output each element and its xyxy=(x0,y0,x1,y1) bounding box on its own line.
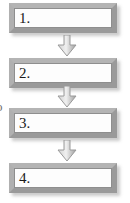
flowchart-diagram: o 1. 2. 3. xyxy=(0,0,130,203)
step-box-inner-4: 4. xyxy=(14,168,112,188)
step-box-inner-1: 1. xyxy=(14,8,112,28)
down-arrow-icon xyxy=(56,35,78,57)
down-arrow-icon xyxy=(56,140,78,162)
flowchart-step-box-3[interactable]: 3. xyxy=(9,108,117,138)
left-edge-cutoff-glyph: o xyxy=(0,100,3,113)
flowchart-step-box-1[interactable]: 1. xyxy=(9,3,117,33)
step-box-inner-3: 3. xyxy=(14,113,112,133)
step-label-3: 3. xyxy=(19,116,30,131)
step-label-4: 4. xyxy=(19,171,30,186)
flowchart-step-box-2[interactable]: 2. xyxy=(9,58,117,88)
down-arrow-icon xyxy=(56,86,78,108)
step-label-2: 2. xyxy=(19,66,30,81)
step-label-1: 1. xyxy=(19,11,30,26)
flowchart-step-box-4[interactable]: 4. xyxy=(9,163,117,193)
step-box-inner-2: 2. xyxy=(14,63,112,83)
